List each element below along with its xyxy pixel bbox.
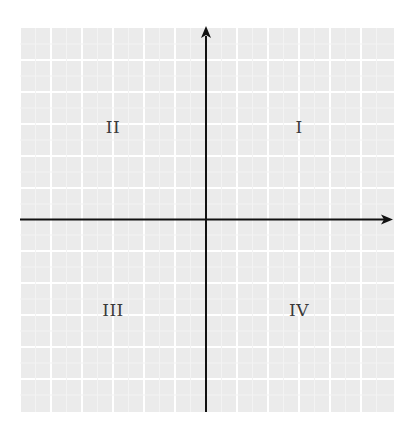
- quadrant-3-label: III: [102, 300, 124, 320]
- quadrant-4-label: IV: [289, 300, 309, 320]
- grid-and-axes: [0, 0, 415, 428]
- quadrant-1-label: I: [295, 117, 302, 137]
- quadrant-2-label: II: [106, 117, 120, 137]
